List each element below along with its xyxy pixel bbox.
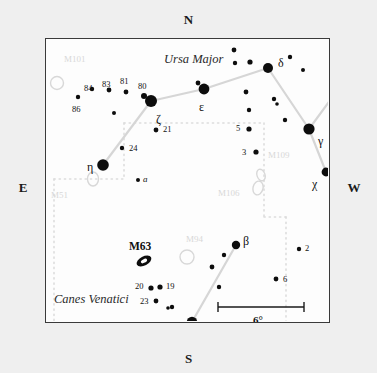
- star-label-83: 83: [102, 80, 111, 89]
- messier-label-M51: M51: [51, 191, 68, 200]
- bright-messier-markers: [135, 253, 153, 268]
- star-label-21: 21: [163, 125, 172, 134]
- star-label-3: 3: [242, 148, 246, 157]
- star-label-β: β: [243, 235, 249, 247]
- star-label-ε: ε: [199, 101, 204, 113]
- star-label-84: 84: [84, 84, 93, 93]
- star-s-6: [274, 277, 279, 282]
- star-label-γ: γ: [318, 135, 323, 147]
- star-eta: [97, 159, 109, 171]
- star-s-24: [120, 146, 124, 150]
- star-s-um3: [247, 59, 252, 64]
- star-s-cv4: [170, 305, 174, 309]
- star-s-5: [246, 126, 251, 131]
- star-beta: [232, 241, 240, 249]
- compass-south: S: [0, 351, 377, 367]
- star-s-21: [154, 128, 159, 133]
- star-label-86: 86: [72, 105, 81, 114]
- star-s-23: [154, 299, 159, 304]
- asterism-line: [204, 68, 268, 89]
- star-label-χ: χ: [312, 178, 317, 190]
- star-s-81: [124, 90, 129, 95]
- star-label-23: 23: [140, 297, 149, 306]
- messier-label-M63: M63: [129, 241, 151, 253]
- star-s-a: [136, 178, 140, 182]
- star-epsilon: [199, 84, 210, 95]
- faint-messier-markers: [51, 77, 267, 265]
- star-label-5: 5: [236, 124, 240, 133]
- star-s-um9: [275, 102, 279, 106]
- star-label-η: η: [87, 161, 93, 173]
- star-s-3: [253, 149, 258, 154]
- star-s-um7: [301, 68, 305, 72]
- scale-bar-label: 6°: [253, 315, 263, 323]
- asterism-line: [192, 245, 236, 321]
- compass-east: E: [14, 180, 32, 196]
- star-s-um6: [288, 55, 292, 59]
- star-chart: N S E W Ursa MajorCanes Venaticiζεδγηχαβ…: [0, 0, 377, 373]
- star-label-20: 20: [135, 282, 144, 291]
- star-s-um8: [272, 97, 276, 101]
- star-s-20: [148, 285, 153, 290]
- messier-label-M94: M94: [186, 235, 203, 244]
- star-label-δ: δ: [278, 57, 284, 69]
- asterism-line: [103, 101, 151, 165]
- star-label-80: 80: [138, 82, 147, 91]
- star-s-um2: [233, 61, 237, 65]
- star-label-24: 24: [129, 144, 138, 153]
- star-s-cv7: [166, 306, 170, 310]
- star-s-cv3: [217, 285, 221, 289]
- compass-north: N: [0, 12, 377, 28]
- star-s-cv1: [222, 253, 226, 257]
- star-s-cv2: [210, 265, 215, 270]
- star-label-19: 19: [166, 282, 175, 291]
- messier-label-M109: M109: [268, 151, 290, 160]
- constellation-name-0: Ursa Major: [164, 53, 223, 66]
- messier-marker-faint: [251, 180, 264, 196]
- star-s-86: [76, 95, 80, 99]
- messier-marker-faint: [255, 168, 267, 182]
- messier-marker-faint: [180, 250, 194, 264]
- compass-west: W: [345, 180, 363, 196]
- star-s-um5: [244, 90, 249, 95]
- star-label-81: 81: [120, 77, 129, 86]
- star-s-um10: [247, 108, 251, 112]
- star-s-faint1: [112, 111, 116, 115]
- star-gamma: [303, 123, 314, 134]
- star-chi: [322, 168, 328, 177]
- constellation-name-1: Canes Venatici: [54, 293, 129, 306]
- messier-label-M101: M101: [64, 55, 86, 64]
- messier-marker-faint: [51, 77, 64, 90]
- star-s-2: [297, 247, 301, 251]
- messier-label-M106: M106: [218, 189, 240, 198]
- sky-map-frame: Ursa MajorCanes Venaticiζεδγηχαβ80818384…: [45, 38, 330, 323]
- star-label-6: 6: [283, 275, 287, 284]
- star-label-2: 2: [305, 244, 309, 253]
- star-label-a: a: [143, 175, 148, 184]
- scale-bar: [218, 302, 304, 312]
- star-s-19: [157, 284, 162, 289]
- star-label-ζ: ζ: [156, 113, 161, 125]
- star-s-um4: [196, 81, 201, 86]
- star-dots: [76, 48, 328, 321]
- star-s-80: [141, 93, 147, 99]
- star-s-um11: [283, 118, 287, 122]
- asterism-line: [151, 89, 204, 101]
- star-delta: [263, 63, 273, 73]
- star-s-um1: [232, 48, 237, 53]
